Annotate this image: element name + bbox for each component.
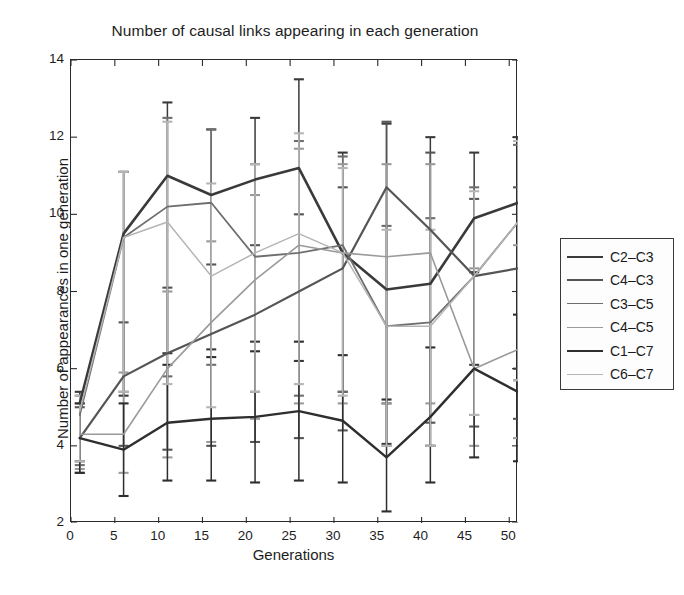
legend-item-label: C4–C3 <box>610 272 654 288</box>
legend-line-swatch <box>567 279 603 281</box>
y-tick-label: 6 <box>30 360 64 375</box>
legend-line-swatch <box>567 256 603 258</box>
y-tick-label: 14 <box>30 51 64 66</box>
x-tick-label: 15 <box>184 528 218 543</box>
chart-figure: Number of causal links appearing in each… <box>0 0 684 595</box>
x-tick-label: 45 <box>447 528 481 543</box>
x-tick-label: 0 <box>53 528 87 543</box>
legend-item-c2-c3[interactable]: C2–C3 <box>561 245 673 269</box>
legend-item-c1-c7[interactable]: C1–C7 <box>561 339 673 363</box>
x-tick-label: 5 <box>97 528 131 543</box>
legend: C2–C3C4–C3C3–C5C4–C5C1–C7C6–C7 <box>560 238 674 390</box>
x-axis-label: Generations <box>70 546 517 563</box>
legend-line-swatch <box>567 327 603 328</box>
x-tick-label: 50 <box>491 528 525 543</box>
x-tick-label: 25 <box>272 528 306 543</box>
x-tick-label: 10 <box>141 528 175 543</box>
y-tick-label: 4 <box>30 437 64 452</box>
legend-item-label: C4–C5 <box>610 319 654 335</box>
y-tick-label: 12 <box>30 128 64 143</box>
x-tick-label: 30 <box>316 528 350 543</box>
plot-area <box>70 59 517 522</box>
error-bars-c4-c3 <box>75 122 518 473</box>
legend-line-swatch <box>567 350 603 352</box>
legend-item-c4-c3[interactable]: C4–C3 <box>561 269 673 293</box>
legend-line-swatch <box>567 374 603 375</box>
chart-title: Number of causal links appearing in each… <box>70 22 520 40</box>
x-tick-label: 35 <box>360 528 394 543</box>
plot-svg <box>71 60 518 523</box>
y-tick-label: 8 <box>30 283 64 298</box>
legend-item-c3-c5[interactable]: C3–C5 <box>561 292 673 316</box>
legend-item-label: C1–C7 <box>610 343 654 359</box>
y-tick-label: 10 <box>30 205 64 220</box>
legend-item-c4-c5[interactable]: C4–C5 <box>561 316 673 340</box>
x-tick-label: 40 <box>404 528 438 543</box>
legend-line-swatch <box>567 303 603 304</box>
y-tick-label: 2 <box>30 514 64 529</box>
x-tick-label: 20 <box>228 528 262 543</box>
legend-item-label: C3–C5 <box>610 296 654 312</box>
legend-item-label: C6–C7 <box>610 366 654 382</box>
legend-item-label: C2–C3 <box>610 249 654 265</box>
legend-item-c6-c7[interactable]: C6–C7 <box>561 363 673 387</box>
